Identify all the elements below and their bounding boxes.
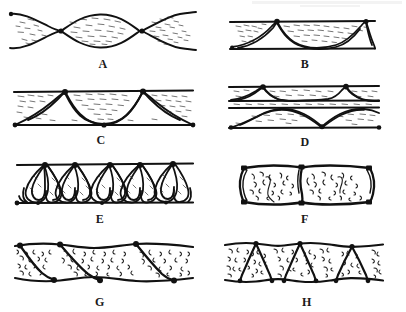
panel-a-label: A [83,58,123,70]
panel-f-label: F [285,213,325,225]
scan-artifact-top [252,1,402,4]
panel-c-drawing [12,84,196,132]
panel-e-label: E [80,213,120,225]
panel-a [8,6,198,56]
panel-a-drawing [8,6,198,56]
panel-c-label: C [81,134,121,146]
panel-h-label: H [287,296,327,308]
panel-h [222,238,386,288]
panel-g-label: G [80,296,120,308]
panel-h-drawing [222,238,386,288]
panel-f [230,160,382,210]
panel-b [228,14,378,56]
panel-f-drawing [230,160,382,210]
panel-g [12,238,196,288]
panel-g-drawing [12,238,196,288]
panel-c [12,84,196,132]
scan-artifact-top-2 [300,5,360,7]
figure-plate: A [0,0,406,312]
panel-d-drawing [226,80,382,136]
panel-b-label: B [285,58,325,70]
panel-e-drawing [14,158,196,210]
panel-d-label: D [285,136,325,148]
panel-b-drawing [228,14,378,56]
panel-d [226,80,382,136]
panel-e [14,158,196,210]
